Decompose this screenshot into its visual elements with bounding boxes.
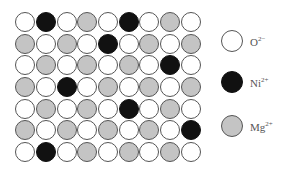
magnesium-ion-icon	[57, 34, 77, 54]
oxide-ion-icon	[160, 77, 180, 97]
oxide-ion-icon	[36, 77, 56, 97]
magnesium-ion-icon	[119, 55, 139, 75]
nickel-ion-icon	[181, 120, 201, 140]
nickel-ion-swatch-icon	[221, 71, 243, 93]
oxide-ion-icon	[36, 120, 56, 140]
magnesium-ion-icon	[15, 77, 35, 97]
lattice-row	[15, 12, 201, 34]
legend-symbol: Ni	[250, 76, 261, 88]
oxide-ion-icon	[139, 99, 159, 119]
legend-charge: 2+	[265, 120, 272, 128]
oxide-ion-icon	[98, 142, 118, 162]
lattice-row	[15, 55, 201, 77]
legend-item-oxide: O2−	[221, 30, 265, 52]
oxide-ion-icon	[98, 55, 118, 75]
oxide-ion-icon	[160, 120, 180, 140]
legend-charge: 2+	[261, 76, 268, 84]
magnesium-ion-icon	[98, 120, 118, 140]
magnesium-ion-icon	[15, 34, 35, 54]
legend-item-magnesium: Mg2+	[221, 115, 273, 137]
oxide-ion-icon	[57, 55, 77, 75]
ion-lattice	[15, 12, 201, 164]
oxide-ion-icon	[119, 34, 139, 54]
oxide-ion-icon	[181, 55, 201, 75]
oxide-ion-icon	[77, 77, 97, 97]
magnesium-ion-icon	[77, 142, 97, 162]
magnesium-ion-icon	[139, 34, 159, 54]
magnesium-ion-icon	[36, 55, 56, 75]
oxide-ion-icon	[119, 77, 139, 97]
nickel-ion-icon	[160, 55, 180, 75]
oxide-ion-icon	[98, 99, 118, 119]
magnesium-ion-icon	[160, 142, 180, 162]
oxide-ion-icon	[57, 99, 77, 119]
legend-charge: 2−	[258, 35, 265, 43]
magnesium-ion-icon	[119, 142, 139, 162]
oxide-ion-icon	[181, 99, 201, 119]
oxide-ion-icon	[77, 120, 97, 140]
magnesium-ion-icon	[139, 77, 159, 97]
legend-item-nickel: Ni2+	[221, 71, 268, 93]
oxide-ion-icon	[181, 142, 201, 162]
magnesium-ion-icon	[77, 12, 97, 32]
nickel-ion-icon	[98, 34, 118, 54]
magnesium-ion-icon	[15, 120, 35, 140]
magnesium-ion-icon	[57, 120, 77, 140]
oxide-ion-icon	[139, 12, 159, 32]
oxide-ion-icon	[57, 142, 77, 162]
magnesium-ion-swatch-icon	[221, 115, 243, 137]
lattice-row	[15, 77, 201, 99]
magnesium-ion-icon	[181, 34, 201, 54]
legend-symbol: Mg	[250, 120, 265, 132]
oxide-ion-icon	[15, 55, 35, 75]
nickel-ion-icon	[36, 12, 56, 32]
legend-symbol: O	[250, 35, 258, 47]
magnesium-ion-icon	[160, 99, 180, 119]
oxide-ion-icon	[98, 12, 118, 32]
lattice-row	[15, 98, 201, 120]
magnesium-ion-icon	[36, 99, 56, 119]
oxide-ion-icon	[77, 34, 97, 54]
oxide-ion-icon	[139, 142, 159, 162]
magnesium-ion-icon	[181, 77, 201, 97]
oxide-ion-icon	[15, 12, 35, 32]
oxide-ion-icon	[119, 120, 139, 140]
oxide-ion-icon	[15, 142, 35, 162]
lattice-row	[15, 142, 201, 164]
lattice-row	[15, 120, 201, 142]
oxide-ion-icon	[36, 34, 56, 54]
oxide-ion-icon	[181, 12, 201, 32]
oxide-ion-icon	[15, 99, 35, 119]
lattice-row	[15, 34, 201, 56]
nickel-ion-icon	[119, 99, 139, 119]
magnesium-ion-icon	[160, 12, 180, 32]
magnesium-ion-icon	[77, 55, 97, 75]
nickel-ion-icon	[119, 12, 139, 32]
oxide-ion-icon	[139, 55, 159, 75]
oxide-ion-icon	[57, 12, 77, 32]
magnesium-ion-icon	[98, 77, 118, 97]
nickel-ion-icon	[36, 142, 56, 162]
magnesium-ion-icon	[77, 99, 97, 119]
oxide-ion-swatch-icon	[221, 30, 243, 52]
oxide-ion-icon	[160, 34, 180, 54]
nickel-ion-icon	[57, 77, 77, 97]
magnesium-ion-icon	[139, 120, 159, 140]
